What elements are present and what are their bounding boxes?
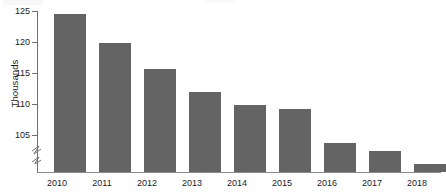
x-tick-label-2018: 2018 (392, 178, 442, 188)
x-tick-label-2015: 2015 (257, 178, 307, 188)
plot-area (38, 0, 441, 172)
x-tick-label-2011: 2011 (77, 178, 127, 188)
y-tick-label-120: 120 (6, 38, 30, 47)
x-tick-label-2013: 2013 (167, 178, 217, 188)
y-tick-label-105: 105 (6, 131, 30, 140)
bar-2014 (234, 105, 266, 172)
y-axis-title: Thousands (9, 44, 20, 124)
y-tick-label-125: 125 (6, 7, 30, 16)
x-tick-label-2017: 2017 (347, 178, 397, 188)
y-tick-label-110: 110 (6, 100, 30, 109)
y-tick-mark-120 (32, 42, 37, 43)
x-tick-label-2014: 2014 (212, 178, 262, 188)
y-tick-mark-110 (32, 104, 37, 105)
bar-2015 (279, 109, 311, 172)
x-tick-label-2016: 2016 (302, 178, 352, 188)
y-tick-mark-125 (32, 11, 37, 12)
x-axis-line (37, 172, 441, 173)
x-tick-label-2012: 2012 (122, 178, 172, 188)
bar-2016 (324, 143, 356, 172)
bar-2012 (144, 69, 176, 172)
bar-2018 (414, 164, 446, 172)
cropped-title-remnant (3, 0, 43, 5)
y-tick-mark-105 (32, 135, 37, 136)
bar-2011 (99, 43, 131, 172)
y-tick-label-115: 115 (6, 69, 30, 78)
x-tick-label-2010: 2010 (32, 178, 82, 188)
bar-2010 (54, 14, 86, 172)
bar-2013 (189, 92, 221, 172)
y-tick-mark-115 (32, 73, 37, 74)
bar-2017 (369, 151, 401, 172)
